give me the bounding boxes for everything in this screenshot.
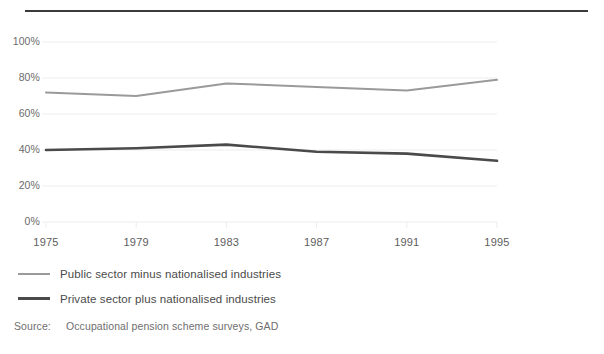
x-tick-label: 1975 <box>16 236 76 248</box>
series-line-private <box>46 145 497 161</box>
line-chart-svg <box>0 30 604 230</box>
x-tick-label: 1995 <box>467 236 527 248</box>
x-tick-label: 1979 <box>106 236 166 248</box>
light-line-swatch-icon <box>18 273 50 275</box>
dark-line-swatch-icon <box>18 297 50 300</box>
y-tick-label: 80% <box>0 71 40 83</box>
source-label: Source: <box>14 320 66 332</box>
y-tick-label: 40% <box>0 143 40 155</box>
chart-figure: 100%80%60%40%20%0% 197519791983198719911… <box>0 0 604 354</box>
legend-label-private: Private sector plus nationalised industr… <box>60 293 276 305</box>
source-note: Source: Occupational pension scheme surv… <box>14 320 278 332</box>
chart-legend: Public sector minus nationalised industr… <box>18 261 438 311</box>
x-tick-label: 1987 <box>287 236 347 248</box>
source-value: Occupational pension scheme surveys, GAD <box>66 320 278 332</box>
y-tick-label: 0% <box>0 215 40 227</box>
plot-area <box>0 30 604 230</box>
legend-label-public: Public sector minus nationalised industr… <box>60 268 281 280</box>
x-tick-label: 1983 <box>196 236 256 248</box>
x-tick-label: 1991 <box>377 236 437 248</box>
header-rule <box>25 10 588 12</box>
legend-item-public[interactable]: Public sector minus nationalised industr… <box>18 261 438 286</box>
y-tick-label: 100% <box>0 35 40 47</box>
legend-item-private[interactable]: Private sector plus nationalised industr… <box>18 286 438 311</box>
y-tick-label: 20% <box>0 179 40 191</box>
y-tick-label: 60% <box>0 107 40 119</box>
series-line-public <box>46 80 497 96</box>
